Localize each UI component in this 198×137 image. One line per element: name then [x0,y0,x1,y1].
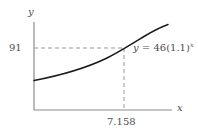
equation-exponent: x [190,41,194,49]
equation-coefficient: 46 [153,42,166,53]
x-axis-tick-label: 7.158 [107,117,136,127]
equation-lhs: y [133,42,139,53]
plot-area [0,0,198,137]
exponential-function-graph: y x 91 7.158 y = 46(1.1)x [0,0,198,137]
y-axis-tick-label: 91 [9,43,22,53]
y-axis-label: y [28,7,34,17]
x-axis-label: x [177,103,183,113]
equation-equals: = [142,42,150,53]
curve-equation-annotation: y = 46(1.1)x [133,43,194,53]
equation-base: (1.1) [166,42,190,53]
